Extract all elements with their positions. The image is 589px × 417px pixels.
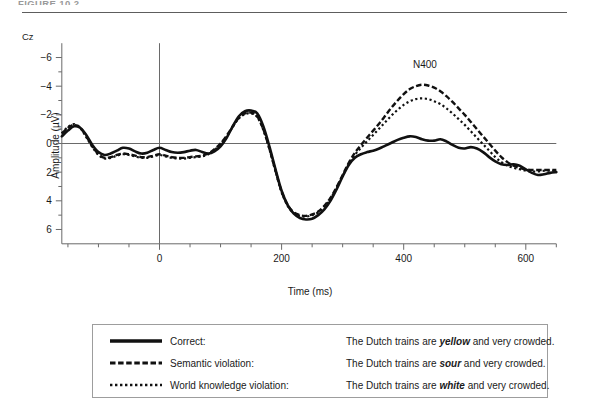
erp-trace-dotted — [62, 98, 557, 216]
legend-sentence-world-knowledge: The Dutch trains are white and very crow… — [346, 380, 549, 391]
y-tick-label: −4 — [40, 81, 52, 92]
y-tick-label: 4 — [46, 195, 52, 206]
legend-label-world-knowledge: World knowledge violation: — [170, 380, 340, 391]
sentence-pre: The Dutch trains are — [346, 380, 439, 391]
erp-plot: −6−4−202460200400600 — [0, 0, 589, 320]
sentence-emphasis: sour — [439, 358, 461, 369]
y-tick-label: 6 — [46, 224, 52, 235]
sentence-pre: The Dutch trains are — [346, 336, 439, 347]
x-tick-label: 200 — [273, 253, 290, 264]
legend-row: World knowledge violation: The Dutch tra… — [93, 376, 547, 394]
legend-label-correct: Correct: — [170, 336, 340, 347]
sentence-post: and very crowded. — [461, 358, 546, 369]
sentence-emphasis: white — [439, 380, 465, 391]
legend-swatch-dashed — [108, 356, 164, 370]
sentence-post: and very crowded. — [465, 380, 550, 391]
x-tick-label: 0 — [157, 253, 163, 264]
legend-row: Semantic violation: The Dutch trains are… — [93, 354, 547, 372]
legend-swatch-dotted — [108, 378, 164, 392]
y-tick-label: −6 — [40, 52, 52, 63]
sentence-pre: The Dutch trains are — [346, 358, 439, 369]
y-tick-label: 2 — [46, 167, 52, 178]
figure-root: FIGURE 10.2 Amplitude (µV) Time (ms) Cz … — [0, 0, 589, 417]
y-tick-label: 0 — [46, 138, 52, 149]
legend-sentence-correct: The Dutch trains are yellow and very cro… — [346, 336, 554, 347]
y-tick-label: −2 — [40, 109, 52, 120]
legend-row: Correct: The Dutch trains are yellow and… — [93, 332, 547, 350]
legend: Correct: The Dutch trains are yellow and… — [92, 324, 548, 398]
legend-label-semantic: Semantic violation: — [170, 358, 340, 369]
x-tick-label: 400 — [395, 253, 412, 264]
sentence-post: and very crowded. — [470, 336, 555, 347]
x-tick-label: 600 — [517, 253, 534, 264]
legend-swatch-solid — [108, 334, 164, 348]
legend-sentence-semantic: The Dutch trains are sour and very crowd… — [346, 358, 546, 369]
sentence-emphasis: yellow — [439, 336, 470, 347]
erp-trace-solid — [62, 110, 557, 219]
